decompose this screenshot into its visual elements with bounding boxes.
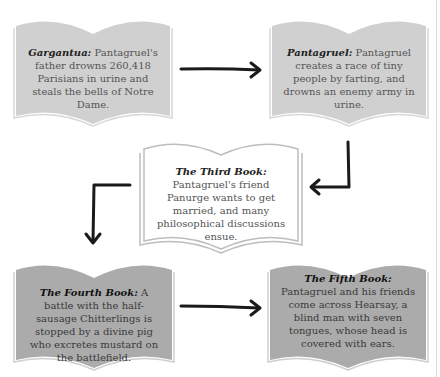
arrow-left-down-icon: [86, 185, 130, 243]
arrow-right-icon: [181, 63, 260, 77]
arrow-right-icon: [181, 301, 260, 315]
arrow-down-left-icon: [311, 142, 349, 194]
flow-arrows: [0, 0, 440, 377]
